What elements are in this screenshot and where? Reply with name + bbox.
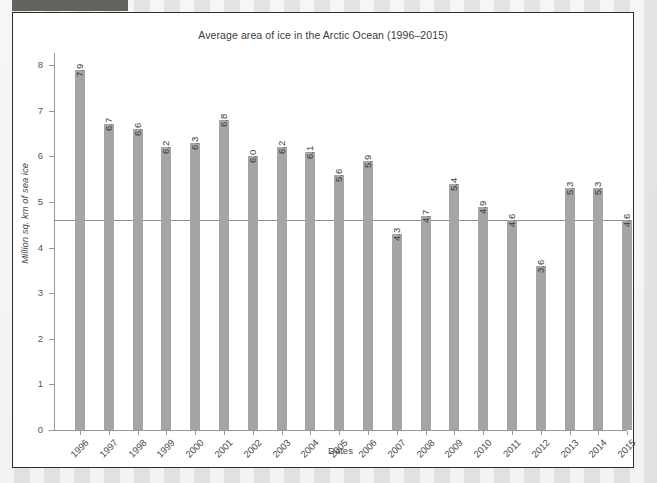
- x-tick: [570, 431, 571, 435]
- bar-value-label: 4.6: [506, 214, 517, 227]
- y-tick-label: 7: [3, 105, 43, 116]
- bar-value-label: 4.7: [420, 209, 431, 222]
- bar-value-label: 6.3: [189, 137, 200, 150]
- bar-value-label: 6.7: [103, 118, 114, 131]
- bar-value-label: 5.3: [564, 182, 575, 195]
- bar-value-label: 5.9: [362, 155, 373, 168]
- x-tick: [195, 431, 196, 435]
- x-axis-label-2002: 2002: [241, 437, 264, 460]
- bar-value-label: 5.3: [592, 182, 603, 195]
- x-axis-label-2012: 2012: [529, 437, 552, 460]
- x-tick: [166, 431, 167, 435]
- x-axis-label-2007: 2007: [385, 437, 408, 460]
- bar-2004[interactable]: [305, 152, 315, 430]
- bar-1997[interactable]: [104, 124, 114, 430]
- x-tick: [282, 431, 283, 435]
- y-tick: [49, 384, 55, 385]
- x-tick: [310, 431, 311, 435]
- x-tick: [138, 431, 139, 435]
- y-tick-label: 6: [3, 150, 43, 161]
- bar-2012[interactable]: [536, 266, 546, 430]
- bar-value-label: 3.6: [535, 260, 546, 273]
- y-tick-label: 2: [3, 333, 43, 344]
- y-tick-label: 5: [3, 196, 43, 207]
- y-tick: [49, 430, 55, 431]
- x-axis-label-1997: 1997: [97, 437, 120, 460]
- x-tick: [598, 431, 599, 435]
- x-tick: [541, 431, 542, 435]
- y-tick-label: 0: [3, 424, 43, 435]
- x-tick: [224, 431, 225, 435]
- bar-value-label: 6.0: [247, 150, 258, 163]
- x-tick: [512, 431, 513, 435]
- bar-value-label: 7.9: [74, 64, 85, 77]
- x-tick: [339, 431, 340, 435]
- bar-value-label: 6.2: [276, 141, 287, 154]
- y-tick: [49, 202, 55, 203]
- bar-2015[interactable]: [622, 220, 632, 430]
- x-axis-label-1998: 1998: [126, 437, 149, 460]
- bar-2014[interactable]: [593, 188, 603, 430]
- y-axis-line: [54, 53, 55, 431]
- toolbar-strip[interactable]: [12, 0, 128, 11]
- x-tick: [368, 431, 369, 435]
- y-tick: [49, 339, 55, 340]
- bar-2010[interactable]: [478, 207, 488, 430]
- bar-2006[interactable]: [363, 161, 373, 430]
- y-tick: [49, 65, 55, 66]
- y-tick-label: 3: [3, 287, 43, 298]
- chart-panel: Average area of ice in the Arctic Ocean …: [12, 12, 634, 468]
- x-axis-label-2003: 2003: [270, 437, 293, 460]
- x-tick: [426, 431, 427, 435]
- x-tick: [483, 431, 484, 435]
- bar-1996[interactable]: [75, 70, 85, 430]
- bar-2008[interactable]: [421, 216, 431, 430]
- bar-1999[interactable]: [161, 147, 171, 430]
- x-axis-label-2008: 2008: [414, 437, 437, 460]
- y-tick-label: 8: [3, 59, 43, 70]
- bar-2013[interactable]: [565, 188, 575, 430]
- bar-value-label: 4.3: [391, 228, 402, 241]
- bar-value-label: 5.4: [448, 178, 459, 191]
- x-tick: [627, 431, 628, 435]
- x-axis-label-2013: 2013: [558, 437, 581, 460]
- y-tick-label: 4: [3, 242, 43, 253]
- x-tick: [109, 431, 110, 435]
- bar-value-label: 6.6: [132, 123, 143, 136]
- bar-value-label: 4.9: [477, 200, 488, 213]
- bar-value-label: 6.2: [160, 141, 171, 154]
- bar-2002[interactable]: [248, 156, 258, 430]
- bar-1998[interactable]: [133, 129, 143, 430]
- bar-value-label: 5.6: [333, 168, 344, 181]
- bar-2005[interactable]: [334, 175, 344, 430]
- bar-2009[interactable]: [449, 184, 459, 430]
- bar-value-label: 6.1: [304, 146, 315, 159]
- x-axis-label-2015: 2015: [615, 437, 638, 460]
- bar-value-label: 4.6: [621, 214, 632, 227]
- x-tick: [80, 431, 81, 435]
- y-tick: [49, 111, 55, 112]
- y-tick: [49, 293, 55, 294]
- bar-2003[interactable]: [277, 147, 287, 430]
- y-tick-label: 1: [3, 378, 43, 389]
- bar-2001[interactable]: [219, 120, 229, 430]
- bar-2000[interactable]: [190, 143, 200, 430]
- x-tick: [397, 431, 398, 435]
- bar-2007[interactable]: [392, 234, 402, 430]
- x-tick: [253, 431, 254, 435]
- bar-2011[interactable]: [507, 220, 517, 430]
- y-tick: [49, 156, 55, 157]
- x-tick: [454, 431, 455, 435]
- y-tick: [49, 248, 55, 249]
- plot-area: Million sq. km of sea ice Dates 01234567…: [13, 13, 635, 469]
- bar-value-label: 6.8: [218, 114, 229, 127]
